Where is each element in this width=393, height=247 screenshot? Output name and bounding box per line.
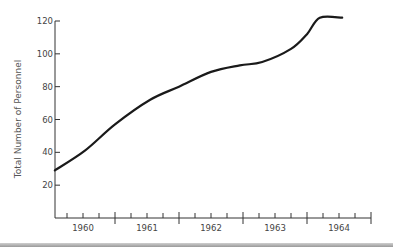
y-tick-label: 80 bbox=[42, 82, 53, 92]
series-line bbox=[55, 17, 342, 171]
x-tick-label: 1964 bbox=[328, 223, 350, 233]
y-tick-label: 60 bbox=[42, 115, 53, 125]
y-tick-label: 20 bbox=[42, 180, 53, 190]
x-tick-label: 1960 bbox=[72, 223, 94, 233]
y-tick-label: 120 bbox=[37, 16, 53, 26]
x-tick-label: 1963 bbox=[264, 223, 286, 233]
x-tick-label: 1961 bbox=[136, 223, 158, 233]
bottom-divider bbox=[0, 243, 393, 247]
y-axis: 20406080100120 bbox=[37, 16, 60, 218]
x-tick-label: 1962 bbox=[200, 223, 222, 233]
y-tick-label: 100 bbox=[37, 49, 53, 59]
y-axis-title: Total Number of Personnel bbox=[13, 60, 23, 179]
x-axis: 19601961196219631964 bbox=[55, 212, 371, 233]
y-tick-label: 40 bbox=[42, 147, 53, 157]
line-chart: 20406080100120 19601961196219631964 Tota… bbox=[0, 0, 393, 247]
